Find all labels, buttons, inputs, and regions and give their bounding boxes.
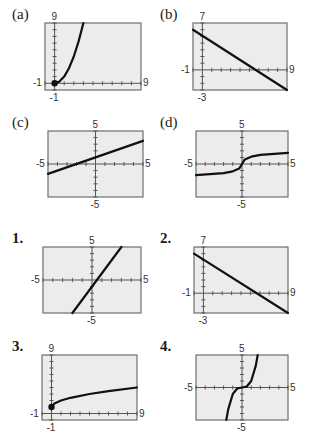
x-max-label: 5 xyxy=(290,383,296,393)
plot-area xyxy=(0,0,313,440)
x-min-label: -5 xyxy=(184,383,193,393)
y-max-label: 5 xyxy=(239,344,245,354)
y-min-label: -5 xyxy=(237,423,246,433)
